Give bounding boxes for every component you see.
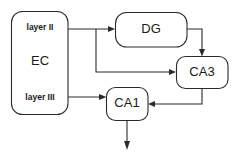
node-ec-label: EC <box>31 53 49 68</box>
node-ca3-label: CA3 <box>189 64 214 79</box>
arrowhead-dg-to-ca3 <box>199 49 205 57</box>
arrowhead-ec-layer3-to-ca1 <box>99 94 107 100</box>
arrowhead-ca3-to-ca1 <box>148 101 155 107</box>
arrowhead-ec-layer2-to-dg <box>108 26 115 32</box>
node-dg-label: DG <box>141 21 161 36</box>
circuit-diagram: layer II EC layer III DG CA3 CA1 <box>0 0 239 160</box>
node-ca1-label: CA1 <box>114 95 139 110</box>
diagram-canvas: layer II EC layer III DG CA3 CA1 <box>0 0 239 160</box>
arrowhead-ec-layer2-to-ca3 <box>169 69 176 75</box>
edge-ca3-to-ca1 <box>153 89 202 105</box>
node-ec-layer3-label: layer III <box>25 92 54 102</box>
arrowhead-ca1-output <box>124 141 130 150</box>
edge-dg-to-ca3 <box>187 29 202 51</box>
node-ec-layer2-label: layer II <box>27 22 54 32</box>
